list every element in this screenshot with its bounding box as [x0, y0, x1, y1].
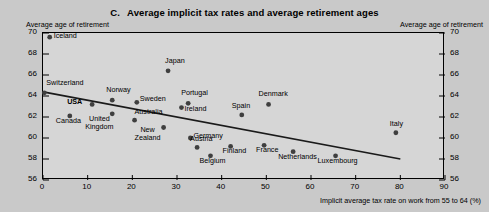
chart-figure: C.Average implicit tax rates and average…	[0, 0, 489, 212]
left-axis-caption: Average age of retirement	[26, 20, 109, 29]
point-label: Austria	[190, 135, 212, 143]
y-tick-label: 66	[450, 69, 472, 78]
y-tick-label: 62	[450, 111, 472, 120]
x-tick-label: 40	[206, 182, 236, 191]
point-label: UnitedKingdom	[85, 115, 113, 131]
data-point	[266, 102, 271, 107]
x-tick-label: 90	[429, 182, 459, 191]
x-tick-label: 60	[295, 182, 325, 191]
data-point	[195, 145, 200, 150]
chart-title: C.Average implicit tax rates and average…	[0, 7, 489, 18]
point-label: Australia	[135, 108, 163, 116]
data-point	[110, 98, 115, 103]
point-label: Iceland	[54, 32, 77, 40]
point-label: NewZealand	[135, 126, 161, 142]
point-label: Sweden	[140, 95, 166, 103]
y-tick-label: 68	[17, 48, 37, 57]
title-text: Average implicit tax rates and average r…	[127, 7, 379, 18]
data-point	[47, 35, 52, 40]
y-tick-label: 64	[450, 90, 472, 99]
point-label: Switzerland	[46, 79, 83, 87]
data-point	[134, 100, 139, 105]
x-tick-label: 70	[340, 182, 370, 191]
y-tick-label: 58	[450, 153, 472, 162]
x-tick-label: 20	[116, 182, 146, 191]
point-label: Luxembourg	[318, 157, 358, 165]
point-label: Finland	[223, 147, 247, 155]
data-point	[393, 130, 398, 135]
data-point	[179, 105, 184, 110]
data-point	[166, 68, 171, 73]
point-label: Canada	[56, 117, 81, 125]
x-tick-label: 80	[384, 182, 414, 191]
x-tick-label: 50	[250, 182, 280, 191]
data-point	[239, 113, 244, 118]
panel-letter: C.	[110, 7, 120, 18]
point-label: USA	[67, 98, 82, 106]
x-tick-label: 10	[72, 182, 102, 191]
y-tick-label: 68	[450, 48, 472, 57]
y-tick-label: 62	[17, 111, 37, 120]
data-point	[132, 118, 137, 123]
y-tick-label: 58	[17, 153, 37, 162]
y-tick-label: 64	[17, 90, 37, 99]
data-point	[90, 102, 95, 107]
y-tick-label: 70	[17, 27, 37, 36]
point-label: France	[256, 146, 278, 154]
x-tick-label: 0	[27, 182, 57, 191]
data-point	[161, 125, 166, 130]
y-tick-label: 60	[17, 132, 37, 141]
point-label: Netherlands	[278, 153, 317, 161]
point-label: Portugal	[181, 89, 208, 97]
point-label: Japan	[165, 57, 185, 65]
point-label: Belgium	[200, 157, 226, 165]
point-label: Denmark	[259, 90, 288, 98]
data-point	[42, 90, 47, 95]
x-axis-title: Implicit average tax rate on work from 5…	[0, 196, 489, 205]
point-label: Norway	[106, 86, 130, 94]
point-label: Spain	[232, 102, 250, 110]
point-label: Italy	[390, 120, 403, 128]
y-tick-label: 70	[450, 27, 472, 36]
y-tick-label: 60	[450, 132, 472, 141]
y-tick-label: 66	[17, 69, 37, 78]
x-tick-label: 30	[161, 182, 191, 191]
point-label: Ireland	[184, 105, 206, 113]
